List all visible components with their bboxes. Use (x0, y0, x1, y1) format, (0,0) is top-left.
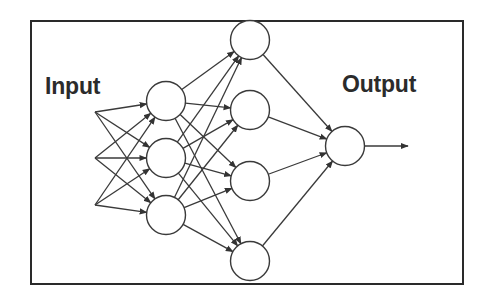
hidden-connection-arrow (178, 125, 238, 200)
output-connection-arrow (268, 117, 327, 139)
hidden-layer-2-neuron (231, 91, 270, 130)
hidden-connection-arrow (183, 224, 233, 251)
output-neuron (326, 127, 365, 166)
output-connection-arrow (263, 55, 332, 132)
hidden-connection-arrow (185, 163, 231, 176)
hidden-connection-arrow (182, 51, 234, 89)
input-connection-arrow (95, 104, 147, 112)
hidden-connection-arrow (177, 56, 238, 142)
hidden-connection-arrow (178, 173, 237, 246)
hidden-connection-arrow (185, 103, 230, 108)
input-connection-arrow (95, 205, 147, 212)
input-connection-arrow (95, 169, 150, 205)
neurons (147, 21, 365, 281)
network-graph (0, 0, 483, 298)
output-connection-arrow (268, 153, 326, 175)
input-connection-arrow (95, 112, 150, 147)
output-connection-arrow (262, 161, 332, 246)
hidden-layer-2-neuron (231, 21, 270, 60)
hidden-connection-arrow (184, 188, 232, 207)
hidden-layer-1-neuron (147, 139, 186, 178)
hidden-layer-2-neuron (231, 242, 270, 281)
hidden-layer-1-neuron (147, 196, 186, 235)
hidden-layer-2-neuron (231, 162, 270, 201)
input-connection-arrow (95, 117, 155, 205)
neural-network-diagram: Input Output (0, 0, 483, 298)
hidden-layer-1-neuron (147, 82, 186, 121)
